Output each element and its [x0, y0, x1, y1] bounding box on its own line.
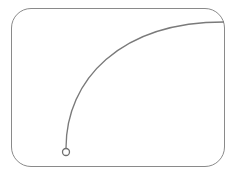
endpoint-circle-icon	[63, 149, 70, 156]
arc-curve	[66, 22, 224, 148]
arc-curve-drawing	[0, 0, 234, 174]
